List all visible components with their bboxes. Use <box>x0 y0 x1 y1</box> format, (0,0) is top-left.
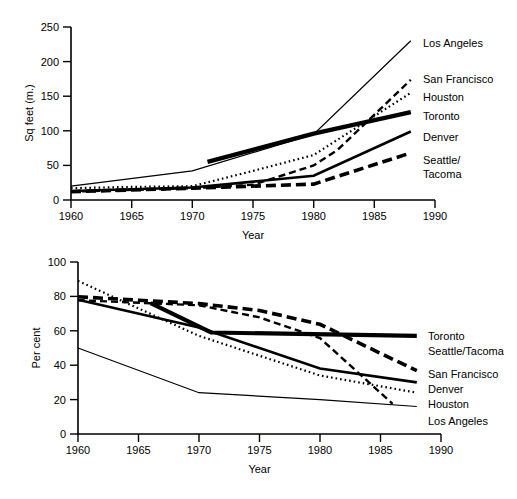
y-axis-title-top: Sq feet (m.) <box>23 84 35 141</box>
x-tick-label-bottom-1965: 1965 <box>126 444 150 456</box>
legend-label-los-angeles-top: Los Angeles <box>423 37 483 49</box>
axis-lines-top <box>71 27 435 200</box>
y-tick-label-top-0: 0 <box>53 194 59 206</box>
y-ticks-top <box>63 27 71 200</box>
chart-bottom: 0 20 40 60 80 100 1960 1965 1970 1975 19… <box>30 256 505 475</box>
x-tick-label-bottom-1985: 1985 <box>368 444 392 456</box>
y-tick-label-top-150: 150 <box>41 90 59 102</box>
y-tick-label-bottom-20: 20 <box>54 394 66 406</box>
y-tick-label-top-100: 100 <box>41 125 59 137</box>
legend-label-houston-top: Houston <box>423 91 464 103</box>
y-tick-label-top-50: 50 <box>47 159 59 171</box>
legend-label-san-francisco-top: San Francisco <box>423 73 493 85</box>
legend-label-seattle-tacoma-bottom: Seattle/Tacoma <box>428 345 505 357</box>
x-tick-label-top-1990: 1990 <box>423 210 447 222</box>
y-tick-label-top-200: 200 <box>41 56 59 68</box>
series-line-toronto-top <box>208 112 411 162</box>
legend-bottom: Toronto Seattle/Tacoma San Francisco Den… <box>428 330 505 427</box>
series-line-denver-bottom <box>78 300 417 383</box>
figure-container: 0 50 100 150 200 250 1960 1965 1970 1975… <box>0 0 517 499</box>
x-tick-label-bottom-1960: 1960 <box>66 444 90 456</box>
x-tick-label-top-1965: 1965 <box>119 210 143 222</box>
series-line-toronto-bottom <box>151 303 417 336</box>
x-tick-label-top-1975: 1975 <box>241 210 265 222</box>
legend-label-tacoma-top: Tacoma <box>423 168 462 180</box>
series-line-houston-top <box>71 93 411 188</box>
x-ticks-top <box>71 200 435 208</box>
y-tick-label-bottom-100: 100 <box>48 256 66 268</box>
series-line-seattle-tacoma-top <box>71 153 411 192</box>
legend-label-houston-bottom: Houston <box>428 398 469 410</box>
series-line-denver-top <box>71 132 411 192</box>
legend-top: Los Angeles San Francisco Houston Toront… <box>423 37 493 180</box>
legend-label-seattle-top: Seattle/ <box>423 154 461 166</box>
legend-label-toronto-bottom: Toronto <box>428 330 465 342</box>
y-tick-label-bottom-80: 80 <box>54 290 66 302</box>
x-tick-label-bottom-1970: 1970 <box>187 444 211 456</box>
legend-label-toronto-top: Toronto <box>423 110 460 122</box>
y-tick-label-bottom-40: 40 <box>54 359 66 371</box>
y-axis-title-bottom: Per cent <box>30 328 42 369</box>
x-tick-label-bottom-1990: 1990 <box>429 444 453 456</box>
y-tick-label-bottom-60: 60 <box>54 325 66 337</box>
charts-svg: 0 50 100 150 200 250 1960 1965 1970 1975… <box>0 0 517 499</box>
x-tick-label-top-1980: 1980 <box>301 210 325 222</box>
x-ticks-bottom <box>78 434 441 442</box>
x-axis-title-bottom: Year <box>248 463 271 475</box>
x-tick-label-top-1960: 1960 <box>59 210 83 222</box>
legend-label-los-angeles-bottom: Los Angeles <box>428 415 488 427</box>
x-tick-label-top-1985: 1985 <box>362 210 386 222</box>
x-axis-title-top: Year <box>242 229 265 241</box>
legend-label-denver-top: Denver <box>423 131 459 143</box>
legend-label-denver-bottom: Denver <box>428 383 464 395</box>
x-tick-label-bottom-1975: 1975 <box>247 444 271 456</box>
series-line-los-angeles-top <box>71 41 411 186</box>
x-tick-label-bottom-1980: 1980 <box>308 444 332 456</box>
y-ticks-bottom <box>70 262 78 434</box>
y-tick-label-top-250: 250 <box>41 21 59 33</box>
chart-top: 0 50 100 150 200 250 1960 1965 1970 1975… <box>23 21 493 241</box>
y-tick-label-bottom-0: 0 <box>60 428 66 440</box>
series-line-los-angeles-bottom <box>78 348 417 407</box>
legend-label-san-francisco-bottom: San Francisco <box>428 368 498 380</box>
series-line-san-francisco-bottom <box>78 300 393 404</box>
x-tick-label-top-1970: 1970 <box>180 210 204 222</box>
